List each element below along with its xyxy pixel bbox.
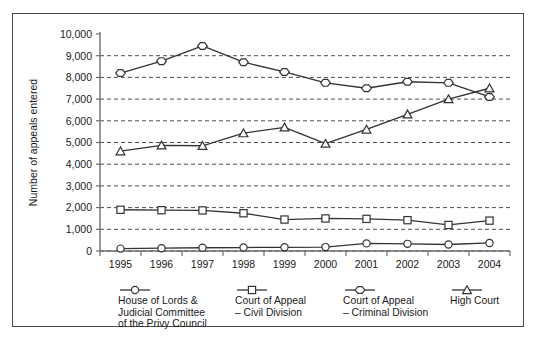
- data-point-circle-2001: [363, 240, 370, 247]
- data-point-circle-1998: [240, 244, 247, 251]
- y-tick-label: 0: [86, 245, 92, 257]
- y-tick-label: 1,000: [66, 223, 92, 235]
- data-point-square-2002: [404, 217, 411, 224]
- legend-entry-3[interactable]: Court of Appeal – Criminal Division: [343, 282, 428, 318]
- data-point-hexagon-1999: [280, 69, 290, 76]
- legend-label: Court of Appeal – Civil Division: [235, 295, 306, 318]
- data-point-triangle-2000: [321, 139, 330, 147]
- data-point-hexagon-1997: [198, 43, 208, 50]
- data-point-square-1995: [117, 206, 124, 213]
- series-line: [121, 46, 490, 97]
- x-tick-label: 1999: [273, 258, 297, 270]
- data-point-triangle-2004: [485, 84, 494, 92]
- legend-sample: [450, 282, 499, 294]
- data-point-square-1996: [158, 207, 165, 214]
- data-point-square-1999: [281, 216, 288, 223]
- y-tick-label: 9,000: [66, 50, 92, 62]
- legend-sample: [343, 282, 428, 294]
- series-hexagon: [116, 43, 495, 101]
- data-point-square-1998: [240, 210, 247, 217]
- data-point-square-1997: [199, 207, 206, 214]
- y-tick-label: 3,000: [66, 180, 92, 192]
- data-point-hexagon-1995: [116, 70, 126, 77]
- data-point-triangle-2002: [403, 110, 412, 118]
- x-tick-label: 2003: [437, 258, 461, 270]
- x-tick-label: 1995: [109, 258, 133, 270]
- chart-figure: 01,0002,0003,0004,0005,0006,0007,0008,00…: [12, 13, 524, 327]
- y-tick-label: 5,000: [66, 136, 92, 148]
- x-tick-label: 2001: [355, 258, 379, 270]
- legend-marker-glyph: [131, 286, 138, 293]
- data-point-triangle-1999: [280, 123, 289, 131]
- y-axis-title: Number of appeals entered: [27, 79, 39, 206]
- data-point-hexagon-1996: [157, 58, 167, 65]
- series-line: [121, 88, 490, 151]
- legend-marker-glyph: [248, 286, 255, 293]
- legend-entry-4[interactable]: High Court: [450, 282, 499, 307]
- data-point-square-2000: [322, 215, 329, 222]
- data-point-square-2003: [445, 221, 452, 228]
- data-point-circle-2002: [404, 240, 411, 247]
- data-point-triangle-2001: [362, 125, 371, 133]
- data-point-square-2001: [363, 215, 370, 222]
- data-point-circle-1996: [158, 245, 165, 252]
- y-tick-label: 6,000: [66, 115, 92, 127]
- legend-entry-1[interactable]: House of Lords & Judicial Committee of t…: [118, 282, 207, 330]
- y-tick-label: 4,000: [66, 158, 92, 170]
- y-tick-label: 7,000: [66, 93, 92, 105]
- legend-sample: [235, 282, 306, 294]
- data-point-circle-1995: [117, 245, 124, 252]
- data-point-circle-2004: [486, 239, 493, 246]
- x-tick-label: 1998: [232, 258, 256, 270]
- series-line: [121, 243, 490, 249]
- legend-entry-2[interactable]: Court of Appeal – Civil Division: [235, 282, 306, 318]
- x-tick-label: 1996: [150, 258, 174, 270]
- y-tick-label: 10,000: [60, 28, 92, 40]
- data-point-square-2004: [486, 217, 493, 224]
- legend-sample: [118, 282, 207, 294]
- legend-label: High Court: [450, 295, 499, 307]
- series-circle: [117, 239, 493, 252]
- x-tick-label: 1997: [191, 258, 215, 270]
- legend-marker-glyph: [355, 287, 365, 294]
- data-point-circle-2000: [322, 243, 329, 250]
- y-tick-label: 2,000: [66, 201, 92, 213]
- data-point-hexagon-2003: [444, 79, 454, 86]
- x-tick-label: 2002: [396, 258, 420, 270]
- series-square: [117, 206, 493, 228]
- legend-label: House of Lords & Judicial Committee of t…: [118, 295, 207, 330]
- data-point-hexagon-2000: [321, 79, 331, 86]
- series-triangle: [116, 84, 494, 155]
- data-point-circle-2003: [445, 241, 452, 248]
- data-point-hexagon-2001: [362, 85, 372, 92]
- data-point-circle-1997: [199, 244, 206, 251]
- legend-label: Court of Appeal – Criminal Division: [343, 295, 428, 318]
- series-line: [121, 210, 490, 225]
- x-tick-label: 2004: [478, 258, 502, 270]
- chart-legend: House of Lords & Judicial Committee of t…: [13, 282, 525, 328]
- data-point-hexagon-1998: [239, 59, 249, 66]
- data-point-hexagon-2004: [485, 94, 495, 101]
- y-tick-label: 8,000: [66, 71, 92, 83]
- data-point-hexagon-2002: [403, 78, 413, 85]
- line-chart: 01,0002,0003,0004,0005,0006,0007,0008,00…: [13, 14, 525, 328]
- x-tick-label: 2000: [314, 258, 338, 270]
- data-point-circle-1999: [281, 244, 288, 251]
